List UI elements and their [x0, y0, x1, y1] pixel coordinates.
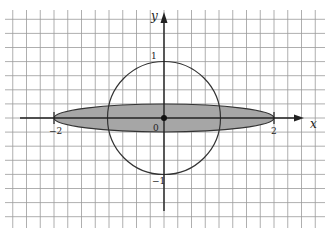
- x-axis-label: x: [310, 117, 317, 131]
- tick-label-x-pos2: 2: [271, 126, 277, 136]
- y-axis-arrow-icon: [161, 12, 168, 23]
- tick-label-y-pos1: 1: [151, 51, 157, 61]
- tick-label-y-neg1: −1: [152, 176, 165, 186]
- y-axis-label: y: [150, 9, 158, 23]
- x-axis-arrow-icon: [294, 115, 304, 122]
- origin-label: 0: [153, 123, 159, 133]
- coordinate-diagram: y x 0 −2 2 1 −1: [0, 0, 332, 233]
- origin-point: [161, 115, 167, 121]
- tick-label-x-neg2: −2: [49, 126, 62, 136]
